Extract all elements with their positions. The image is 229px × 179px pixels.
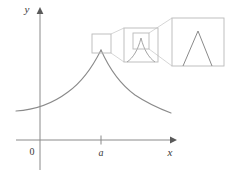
y-axis-label: y (24, 3, 30, 15)
magnification-box-3-curve (183, 31, 212, 66)
figure-container: y x 0 a (0, 0, 229, 179)
connector-box2-box3-top (149, 18, 172, 33)
origin-label: 0 (30, 146, 35, 157)
magnification-box-3-frame (172, 18, 224, 66)
axes-group (16, 7, 177, 170)
y-axis-arrowhead (37, 7, 44, 14)
cusp-magnification-figure: y x 0 a (0, 0, 229, 179)
magnification-box-3 (172, 18, 224, 66)
curve-left-branch (16, 50, 101, 111)
inner-box-in-box-2 (133, 33, 149, 49)
connector-box2-box3-bottom (149, 49, 172, 66)
connector-box1-box2-bottom (111, 53, 124, 62)
x-axis-label: x (167, 146, 173, 158)
curve-right-branch (101, 50, 171, 113)
magnification-box-2 (124, 28, 158, 62)
connectors-group (111, 18, 172, 66)
cusp-point-label: a (99, 147, 104, 158)
connector-box1-box2-top (111, 28, 124, 34)
main-curve-group (16, 50, 171, 113)
x-axis-arrowhead (170, 137, 177, 144)
